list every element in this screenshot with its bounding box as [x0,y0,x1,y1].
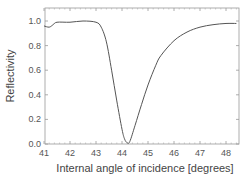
y-axis-label: Reflectivity [4,49,16,103]
y-axis-ticks [45,21,239,144]
x-tick-label: 43 [91,148,101,158]
y-axis-tick-labels: 0.00.20.40.60.81.0 [28,16,41,149]
plot-frame [45,8,239,144]
x-tick-label: 41 [39,148,49,158]
reflectivity-curve [44,21,236,143]
x-tick-label: 47 [195,148,205,158]
x-tick-label: 48 [221,148,231,158]
x-axis-label: Internal angle of incidence [degrees] [56,162,233,174]
y-tick-label: 0.2 [28,114,41,124]
reflectivity-chart: 0.00.20.40.60.81.0 4142434445464748 Inte… [0,0,248,181]
x-tick-label: 46 [169,148,179,158]
y-tick-label: 0.8 [28,41,41,51]
x-tick-label: 42 [65,148,75,158]
y-tick-label: 0.6 [28,65,41,75]
y-tick-label: 0.4 [28,90,41,100]
x-tick-label: 44 [117,148,127,158]
x-tick-label: 45 [143,148,153,158]
x-axis-ticks [44,8,236,144]
y-tick-label: 1.0 [28,16,41,26]
x-axis-tick-labels: 4142434445464748 [39,148,231,158]
